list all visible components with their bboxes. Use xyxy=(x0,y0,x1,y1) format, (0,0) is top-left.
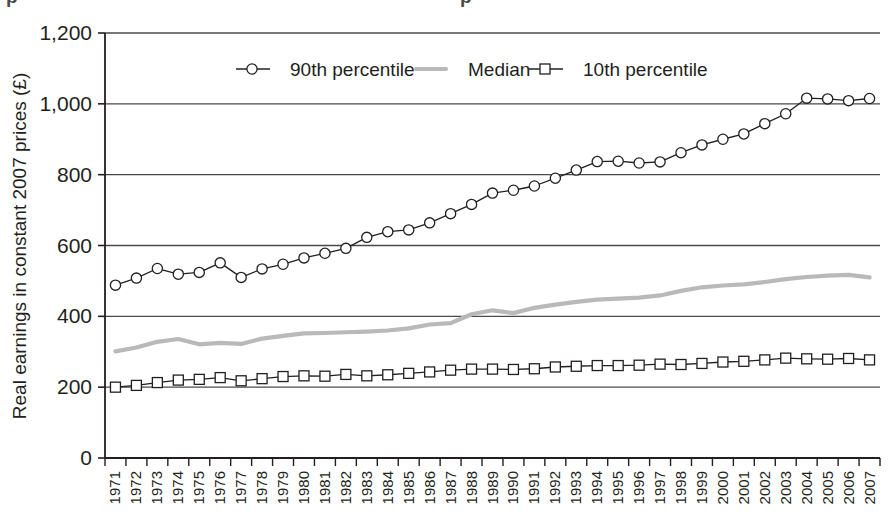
x-axis-group: 1971197219731974197519761977197819791980… xyxy=(105,458,880,504)
marker-10th-1995 xyxy=(613,361,623,371)
marker-90th-1996 xyxy=(634,158,644,168)
x-tick-label-1990: 1990 xyxy=(504,471,521,504)
marker-90th-1986 xyxy=(425,218,435,228)
marker-10th-1976 xyxy=(215,373,225,383)
x-tick-label-1994: 1994 xyxy=(588,471,605,504)
marker-90th-1987 xyxy=(446,209,456,219)
x-tick-label-1992: 1992 xyxy=(546,471,563,504)
x-tick-label-1985: 1985 xyxy=(400,471,417,504)
y-tick-label-800: 800 xyxy=(57,163,92,186)
marker-10th-1984 xyxy=(383,370,393,380)
marker-10th-1987 xyxy=(446,365,456,375)
x-tick-label-2002: 2002 xyxy=(756,471,773,504)
marker-10th-2002 xyxy=(760,355,770,365)
legend-label-10th-percentile: 10th percentile xyxy=(583,59,708,80)
x-tick-label-1974: 1974 xyxy=(169,471,186,504)
y-tick-label-0: 0 xyxy=(80,446,92,469)
x-tick-label-1975: 1975 xyxy=(190,471,207,504)
x-tick-label-1995: 1995 xyxy=(609,471,626,504)
legend-marker-10th-percentile xyxy=(540,64,550,74)
marker-10th-1986 xyxy=(425,367,435,377)
x-tick-label-1981: 1981 xyxy=(316,471,333,504)
marker-10th-1996 xyxy=(634,360,644,370)
legend-label-90th-percentile: 90th percentile xyxy=(290,59,415,80)
x-tick-label-1971: 1971 xyxy=(106,471,123,504)
marker-10th-1993 xyxy=(571,361,581,371)
marker-90th-1984 xyxy=(383,227,393,237)
x-tick-label-1989: 1989 xyxy=(484,471,501,504)
marker-10th-1978 xyxy=(257,374,267,384)
marker-10th-1989 xyxy=(488,364,498,374)
x-tick-label-1978: 1978 xyxy=(253,471,270,504)
marker-90th-1983 xyxy=(362,232,372,242)
y-axis-group: 02004006008001,0001,200 xyxy=(39,21,105,469)
marker-10th-1994 xyxy=(592,361,602,371)
marker-10th-1980 xyxy=(299,371,309,381)
marker-90th-1980 xyxy=(299,253,309,263)
marker-10th-1990 xyxy=(508,364,518,374)
marker-90th-1999 xyxy=(697,140,707,150)
marker-10th-1988 xyxy=(467,364,477,374)
x-tick-label-1999: 1999 xyxy=(693,471,710,504)
marker-10th-1998 xyxy=(676,360,686,370)
marker-10th-1999 xyxy=(697,358,707,368)
marker-10th-2004 xyxy=(802,354,812,364)
x-tick-label-1984: 1984 xyxy=(379,471,396,504)
marker-90th-1985 xyxy=(404,225,414,235)
marker-10th-1992 xyxy=(550,362,560,372)
y-tick-label-600: 600 xyxy=(57,234,92,257)
marker-10th-1982 xyxy=(341,369,351,379)
data-series-group xyxy=(110,93,874,392)
x-tick-label-1980: 1980 xyxy=(295,471,312,504)
x-tick-label-1982: 1982 xyxy=(337,471,354,504)
marker-90th-2002 xyxy=(760,119,770,129)
marker-90th-2001 xyxy=(739,129,749,139)
marker-90th-1971 xyxy=(110,280,120,290)
marker-10th-1991 xyxy=(529,364,539,374)
marker-10th-1985 xyxy=(404,368,414,378)
marker-90th-2007 xyxy=(864,93,874,103)
x-tick-label-2000: 2000 xyxy=(714,471,731,504)
marker-10th-1977 xyxy=(236,376,246,386)
y-tick-label-1,200: 1,200 xyxy=(39,21,92,44)
x-tick-label-1993: 1993 xyxy=(567,471,584,504)
series-line-median xyxy=(115,275,869,352)
marker-90th-1974 xyxy=(173,269,183,279)
marker-10th-2000 xyxy=(718,357,728,367)
y-axis-title: Real earnings in constant 2007 prices (£… xyxy=(9,73,30,419)
y-tick-label-1,000: 1,000 xyxy=(39,92,92,115)
marker-90th-2000 xyxy=(718,134,728,144)
marker-90th-1993 xyxy=(571,165,581,175)
marker-10th-1973 xyxy=(152,378,162,388)
marker-90th-2003 xyxy=(781,109,791,119)
marker-90th-1975 xyxy=(194,267,204,277)
marker-90th-1976 xyxy=(215,258,225,268)
marker-10th-1997 xyxy=(655,359,665,369)
x-tick-label-1973: 1973 xyxy=(148,471,165,504)
x-tick-label-1991: 1991 xyxy=(525,471,542,504)
marker-90th-1973 xyxy=(152,263,162,273)
x-tick-label-2005: 2005 xyxy=(819,471,836,504)
x-tick-label-1997: 1997 xyxy=(651,471,668,504)
x-tick-label-1996: 1996 xyxy=(630,471,647,504)
marker-90th-1997 xyxy=(655,157,665,167)
marker-90th-1991 xyxy=(529,181,539,191)
marker-90th-1978 xyxy=(257,264,267,274)
marker-90th-1982 xyxy=(341,243,351,253)
x-tick-label-1983: 1983 xyxy=(358,471,375,504)
marker-10th-2003 xyxy=(781,353,791,363)
marker-90th-1972 xyxy=(131,273,141,283)
marker-10th-1974 xyxy=(173,375,183,385)
gridlines-group xyxy=(105,33,880,458)
marker-10th-1975 xyxy=(194,374,204,384)
x-tick-label-1998: 1998 xyxy=(672,471,689,504)
marker-90th-2006 xyxy=(843,96,853,106)
x-tick-label-2003: 2003 xyxy=(777,471,794,504)
x-tick-label-1987: 1987 xyxy=(442,471,459,504)
marker-90th-1998 xyxy=(676,148,686,158)
marker-90th-1990 xyxy=(508,185,518,195)
marker-90th-1981 xyxy=(320,248,330,258)
chart-legend: 90th percentileMedian10th percentile xyxy=(236,59,708,80)
marker-10th-1972 xyxy=(131,380,141,390)
x-tick-label-2006: 2006 xyxy=(840,471,857,504)
